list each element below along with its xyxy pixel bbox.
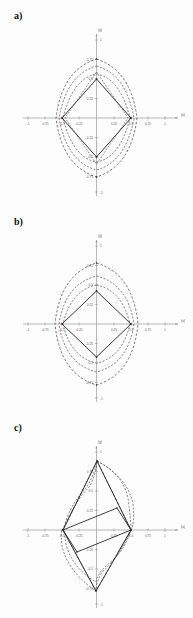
ytick-label: 0.25 (87, 303, 93, 307)
xtick-label: 1 (164, 534, 166, 538)
x-axis-arrow (175, 323, 178, 325)
xtick-label: -0.5 (59, 534, 65, 538)
xtick-label: -1 (27, 534, 30, 538)
ytick-label: 0.25 (87, 97, 93, 101)
ytick-label: -1 (100, 603, 103, 607)
xtick-label: -0.75 (41, 328, 48, 332)
xtick-label: -0.75 (41, 122, 48, 126)
xtick-label: -0.25 (75, 534, 82, 538)
xtick-label: 0.75 (145, 534, 151, 538)
ytick-label: -0.5 (88, 567, 94, 571)
ytick-label: -1 (100, 397, 103, 401)
ytick-label: 1 (100, 38, 102, 42)
y-axis-arrow (95, 446, 97, 449)
y-axis-arrow (95, 34, 97, 37)
xtick-label: -0.25 (75, 122, 82, 126)
ytick-label: 1 (100, 244, 102, 248)
xtick-label: -0.25 (75, 328, 82, 332)
ytick-label: -0.5 (88, 361, 94, 365)
xtick-label: 0.25 (111, 328, 117, 332)
panel-a-plot: -1 -0.75 -0.5 -0.25 0.25 0.5 0.75 1 1 0.… (0, 0, 193, 206)
panel-c-plot: -1 -0.75 -0.5 -0.25 0.25 0.5 0.75 1 1 0.… (0, 412, 193, 618)
panel-b-plot: -1 -0.75 -0.5 -0.25 0.25 0.5 0.75 1 1 0.… (0, 206, 193, 412)
panel-b: b) (0, 206, 193, 412)
ytick-label: 0.5 (89, 489, 94, 493)
y-axis-label: (y) (98, 440, 102, 444)
x-axis-arrow (175, 117, 178, 119)
ytick-label: 0.25 (87, 509, 93, 513)
xtick-label: 1 (164, 328, 166, 332)
xtick-label: 1 (164, 122, 166, 126)
figure-container: a) (0, 0, 193, 618)
x-axis-arrow (175, 529, 178, 531)
y-axis-label: (y) (98, 28, 102, 32)
ytick-label: -0.25 (86, 136, 93, 140)
x-axis-label: (x) (181, 113, 185, 117)
panel-c: c) (0, 412, 193, 618)
xtick-label: 0.25 (111, 122, 117, 126)
y-axis-arrow (95, 240, 97, 243)
xtick-label: 0.75 (145, 122, 151, 126)
y-axis-label: (y) (98, 234, 102, 238)
xtick-label: -1 (27, 122, 30, 126)
xtick-label: -1 (27, 328, 30, 332)
ytick-label: -1 (100, 191, 103, 195)
ytick-label: 1 (100, 450, 102, 454)
xtick-label: -0.75 (41, 534, 48, 538)
xtick-label: 0.75 (145, 328, 151, 332)
xtick-label: 0.5 (129, 328, 134, 332)
x-axis-label: (x) (181, 525, 185, 529)
ytick-label: -0.25 (86, 342, 93, 346)
x-axis-label: (x) (181, 319, 185, 323)
panel-a: a) (0, 0, 193, 206)
ytick-label: 0.5 (89, 283, 94, 287)
